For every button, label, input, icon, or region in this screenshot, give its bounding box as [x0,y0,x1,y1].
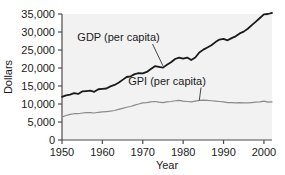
y-tick-label: 15,000 [21,80,55,92]
series-label-gdp: GDP (per capita) [77,31,159,43]
line-chart: 05,00010,00015,00020,00025,00030,00035,0… [0,0,285,175]
y-tick-label: 20,000 [21,62,55,74]
x-axis-ticks [62,140,264,144]
x-tick-label: 1970 [131,146,155,158]
x-axis-title: Year [156,159,179,171]
x-tick-label: 2000 [252,146,276,158]
chart-figure: 05,00010,00015,00020,00025,00030,00035,0… [0,0,285,175]
series-label-gpi: GPI (per capita) [128,75,206,87]
x-tick-label: 1990 [211,146,235,158]
y-tick-label: 35,000 [21,8,55,20]
y-tick-label: 5,000 [27,116,55,128]
y-axis-title: Dollars [2,59,14,94]
x-tick-label: 1960 [90,146,114,158]
y-axis-tick-labels: 05,00010,00015,00020,00025,00030,00035,0… [21,8,55,146]
y-tick-label: 0 [49,134,55,146]
y-tick-label: 30,000 [21,26,55,38]
y-tick-label: 10,000 [21,98,55,110]
x-tick-label: 1950 [50,146,74,158]
x-axis-tick-labels: 195019601970198019902000 [50,146,276,158]
x-tick-label: 1980 [171,146,195,158]
y-tick-label: 25,000 [21,44,55,56]
